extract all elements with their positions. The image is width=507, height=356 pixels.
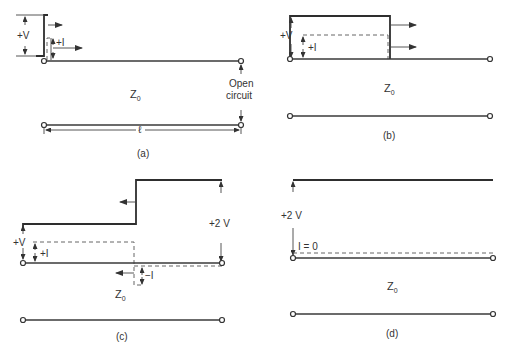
voltage-wavefront [36, 15, 48, 56]
impedance-label: Z0 [130, 88, 141, 102]
voltage-label: +2 V [281, 210, 302, 221]
terminal [21, 261, 26, 266]
voltage-label: +V [280, 30, 293, 41]
caption: (d) [386, 328, 398, 339]
reflected-current-label: −I [145, 270, 154, 281]
voltage-label: +V [17, 30, 30, 41]
impedance-label: Z0 [387, 280, 398, 294]
terminal [239, 123, 244, 128]
caption: (a) [137, 148, 149, 159]
terminal [220, 318, 225, 323]
current-label: I = 0 [298, 241, 318, 252]
impedance-label: Z0 [115, 288, 126, 302]
panel-b: +V +I Z0 (b) [280, 16, 493, 141]
terminal [288, 57, 293, 62]
voltage-wavefront [290, 16, 390, 59]
terminal [42, 59, 47, 64]
current-wavefront [47, 38, 53, 60]
current-label: +I [40, 248, 49, 259]
voltage-label: +V [13, 237, 26, 248]
terminal [288, 114, 293, 119]
terminal [21, 318, 26, 323]
open-label-2: circuit [226, 90, 252, 101]
terminal [488, 57, 493, 62]
panel-c: +2 V +V +I −I Z0 (c) [13, 180, 230, 342]
transmission-line-diagram: +V +I Z0 Open circuit ℓ (a) [0, 0, 507, 356]
current-label: +I [56, 37, 65, 48]
open-label-1: Open [229, 78, 253, 89]
terminal [291, 256, 296, 261]
reflected-voltage-label: +2 V [209, 218, 230, 229]
caption: (c) [116, 331, 128, 342]
terminal [42, 123, 47, 128]
caption: (b) [383, 130, 395, 141]
terminal [491, 256, 496, 261]
terminal [291, 312, 296, 317]
terminal [491, 312, 496, 317]
panel-d: +2 V I = 0 Z0 (d) [281, 180, 496, 339]
panel-a: +V +I Z0 Open circuit ℓ (a) [16, 15, 253, 159]
terminal [239, 59, 244, 64]
voltage-wavefront [23, 180, 222, 228]
impedance-label: Z0 [384, 82, 395, 96]
terminal [220, 261, 225, 266]
current-label: +I [308, 42, 317, 53]
terminal [488, 114, 493, 119]
